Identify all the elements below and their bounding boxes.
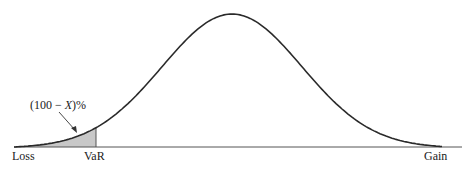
- loss-label: Loss: [12, 150, 35, 162]
- var-label: VaR: [84, 150, 105, 162]
- tail-probability-label: (100 − X)%: [30, 99, 86, 111]
- distribution-curve: [14, 14, 442, 147]
- distribution-chart: [0, 0, 468, 174]
- annotation-arrow-icon: [59, 112, 75, 130]
- gain-label: Gain: [424, 150, 447, 162]
- tail-shaded-area: [14, 128, 96, 147]
